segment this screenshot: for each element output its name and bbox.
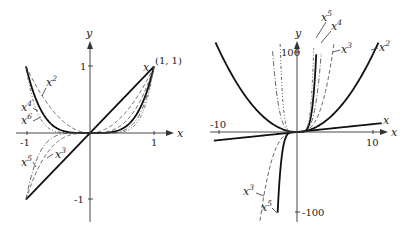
left-tick-label-x-neg1: -1 — [20, 137, 30, 148]
right-plot: x y -10 10 100 -100 x x2 x3 x4 x5 x3 x5 — [210, 9, 398, 222]
left-point-label: (1, 1) — [155, 55, 182, 66]
right-label-x5: x5 — [316, 9, 332, 38]
right-x-axis-label: x — [391, 126, 398, 139]
right-y-axis-label: y — [294, 27, 302, 40]
power-functions-diagram: x y -1 1 1 -1 (1, 1) x x2 x4 x6 x5 x3 — [0, 0, 412, 230]
right-tick-label-x-10: 10 — [366, 137, 379, 148]
left-y-axis-arrow-icon — [87, 41, 93, 49]
svg-text:x2: x2 — [379, 39, 390, 54]
left-label-x3: x3 — [47, 146, 66, 161]
svg-text:x3: x3 — [243, 183, 254, 198]
left-tick-label-x-1: 1 — [151, 137, 157, 148]
right-label-bottom-x5: x5 — [261, 199, 277, 214]
right-label-bottom-x3: x3 — [243, 183, 264, 198]
left-tick-label-y-1: 1 — [80, 61, 86, 72]
right-label-x: x — [383, 114, 390, 127]
svg-text:x3: x3 — [341, 41, 352, 56]
right-tick-label-x-neg10: -10 — [210, 119, 226, 130]
left-x-axis-arrow-icon — [166, 130, 174, 136]
right-tick-label-y-100: 100 — [281, 47, 300, 58]
svg-text:x2: x2 — [46, 74, 57, 89]
left-plot: x y -1 1 1 -1 (1, 1) x x2 x4 x6 x5 x3 — [16, 27, 184, 222]
right-x-axis-arrow-icon — [380, 129, 388, 135]
svg-text:x6: x6 — [21, 112, 32, 127]
left-label-x: x — [143, 61, 150, 74]
right-tick-label-y-neg100: -100 — [302, 207, 324, 218]
svg-text:x5: x5 — [21, 154, 32, 169]
left-x-axis-label: x — [177, 127, 184, 140]
svg-text:x5: x5 — [261, 199, 272, 214]
svg-text:x4: x4 — [331, 18, 342, 33]
left-tick-label-y-neg1: -1 — [74, 194, 84, 205]
right-label-x3: x3 — [333, 41, 352, 56]
left-label-x2: x2 — [42, 74, 57, 96]
left-y-axis-label: y — [85, 27, 93, 40]
